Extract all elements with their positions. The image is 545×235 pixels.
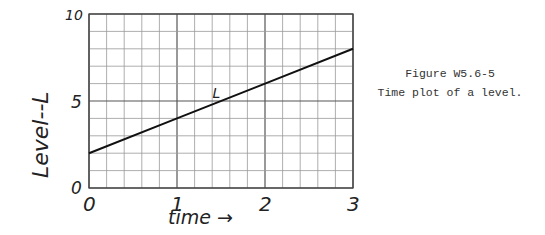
figure-number: Figure W5.6-5	[355, 64, 545, 83]
x-tick-label: 0	[83, 192, 96, 216]
y-tick-label: 0	[71, 178, 82, 198]
x-axis-label: time →	[168, 206, 233, 228]
y-axis-label: Level--L	[28, 91, 53, 178]
x-tick-label: 2	[259, 192, 272, 216]
caption-text: Time plot of a level.	[378, 86, 523, 99]
level-time-plot: 01230510 Level--L time → L	[0, 0, 545, 235]
y-tick-label: 5	[71, 92, 82, 112]
x-tick-label: 3	[347, 192, 360, 216]
line-label-l: L	[213, 85, 221, 101]
y-tick-label: 10	[65, 7, 83, 23]
figure-caption: Figure W5.6-5 Time plot of a level.	[355, 64, 545, 102]
figure-description: Time plot of a level.	[355, 83, 545, 102]
